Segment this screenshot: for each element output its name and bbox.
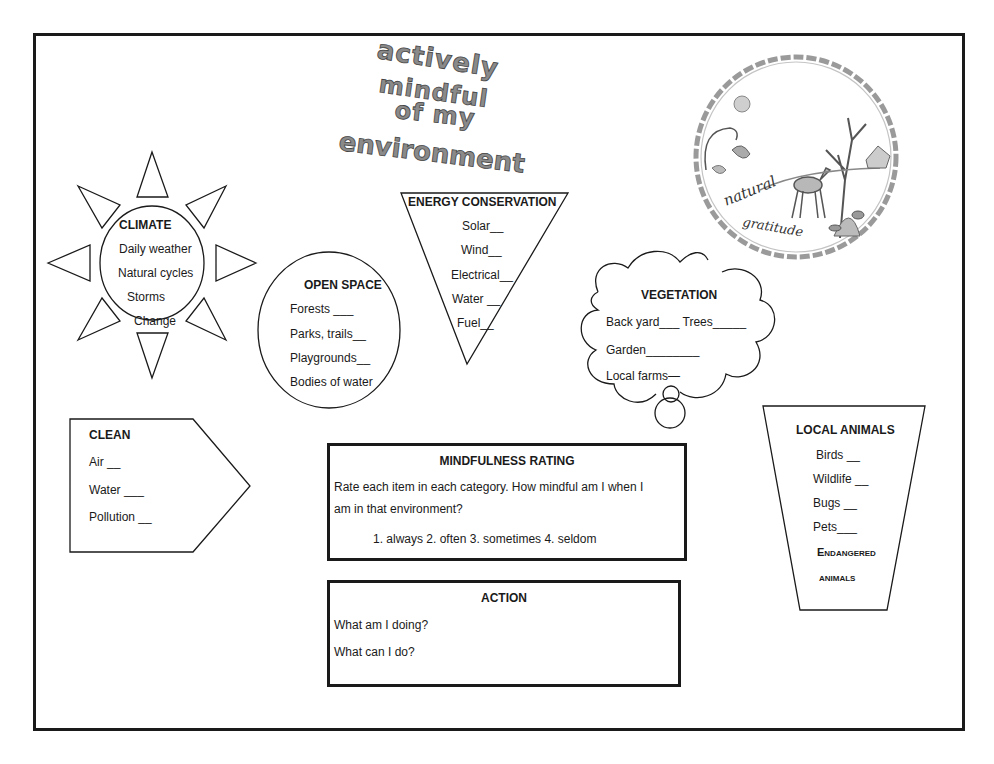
local-animals-item: Bugs __ [813,496,857,510]
mindfulness-instruction-line2: am in that environment? [334,502,463,516]
local-animals-heading: LOCAL ANIMALS [796,423,895,437]
open-space-item: Forests ___ [290,302,353,316]
title-line-4: environment [337,126,526,179]
action-box: ACTION What am I doing? What can I do? [327,580,681,687]
moon-icon [734,96,750,112]
action-question: What am I doing? [334,618,428,632]
open-space-heading: OPEN SPACE [304,278,382,292]
energy-item: Water __ [452,292,500,306]
mindfulness-scale: 1. always 2. often 3. sometimes 4. seldo… [373,532,596,546]
endangered-heading-line2: animals [819,570,855,584]
local-animals-item: Birds __ [816,448,860,462]
sun-shape [48,152,256,378]
energy-item: Fuel__ [457,316,494,330]
clean-item: Air __ [89,455,120,469]
page-title-art: actively mindful of my environment [337,34,526,178]
local-animals-item: Pets___ [813,520,857,534]
open-space-item: Playgrounds__ [290,351,370,365]
clean-item: Pollution __ [89,510,152,524]
artwork-label-natural: natural [721,172,779,209]
energy-item: Electrical__ [451,268,513,282]
endangered-heading-line1: Endangered [817,545,876,559]
vegetation-item: Back yard___ Trees_____ [606,315,746,329]
energy-item: Wind__ [461,243,502,257]
open-space-item: Bodies of water [290,375,373,389]
mindfulness-instruction-line1: Rate each item in each category. How min… [334,480,643,494]
vegetation-heading: VEGETATION [641,288,717,302]
local-animals-item: Wildlife __ [813,472,868,486]
artwork-label-gratitude: gratitude [741,214,804,239]
nature-artwork: natural gratitude [696,57,896,257]
mindfulness-rating-box: MINDFULNESS RATING Rate each item in eac… [327,443,687,561]
climate-heading: CLIMATE [119,218,171,232]
vegetation-item: Local farms— [606,369,680,383]
energy-heading: ENERGY CONSERVATION [408,195,556,209]
climate-item: Natural cycles [118,266,193,280]
action-question: What can I do? [334,645,415,659]
climate-item: Change [134,314,176,328]
clean-heading: CLEAN [89,428,130,442]
action-heading: ACTION [330,591,678,605]
climate-item: Storms [127,290,165,304]
vegetation-item: Garden________ [606,343,699,357]
open-space-item: Parks, trails__ [290,327,366,341]
cloud-bubble-small [663,386,679,402]
energy-item: Solar__ [462,219,503,233]
clean-item: Water ___ [89,483,144,497]
mindfulness-heading: MINDFULNESS RATING [330,454,684,468]
climate-item: Daily weather [119,242,192,256]
